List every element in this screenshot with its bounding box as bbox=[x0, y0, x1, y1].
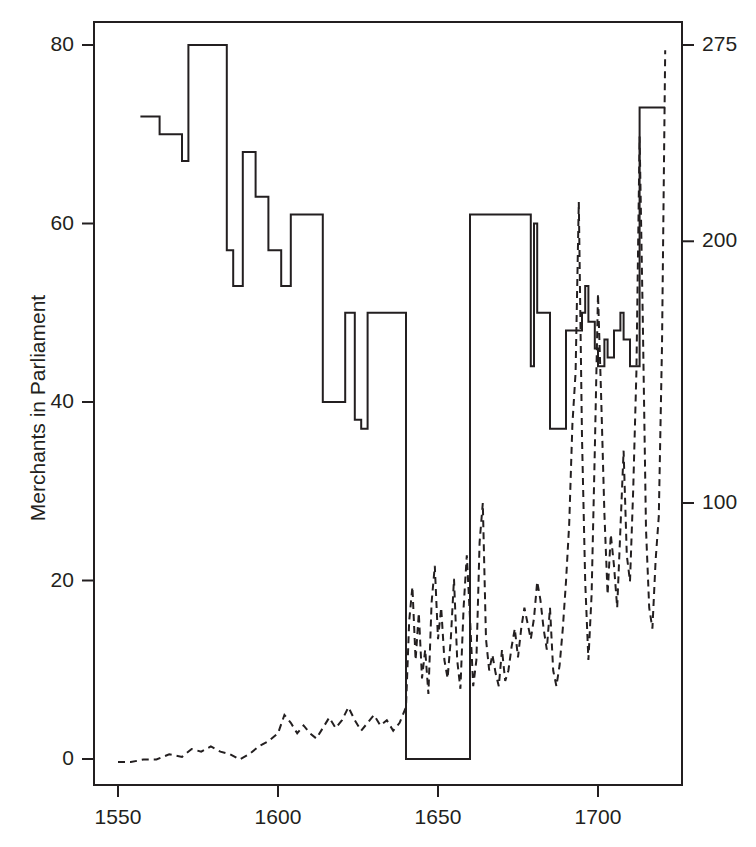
y-axis-left-ticks bbox=[82, 45, 94, 759]
x-tick-label-1650: 1650 bbox=[388, 805, 488, 829]
x-axis-ticks bbox=[118, 785, 598, 797]
chart-figure: 020406080 100200275 1550160016501700 Mer… bbox=[0, 0, 756, 847]
y-tick-label-left-0: 0 bbox=[0, 746, 74, 770]
y-tick-label-right-100: 100 bbox=[702, 490, 737, 514]
x-tick-label-1700: 1700 bbox=[548, 805, 648, 829]
y-axis-right-ticks bbox=[682, 45, 694, 503]
y-axis-left-title: Merchants in Parliament bbox=[26, 278, 50, 538]
y-tick-label-right-200: 200 bbox=[702, 228, 737, 252]
y-tick-label-left-80: 80 bbox=[0, 32, 74, 56]
y-tick-label-right-275: 275 bbox=[702, 32, 737, 56]
series-line-solid-merchants bbox=[140, 45, 665, 759]
x-tick-label-1550: 1550 bbox=[68, 805, 168, 829]
series-line-dashed-trade bbox=[118, 50, 665, 762]
y-tick-label-left-60: 60 bbox=[0, 211, 74, 235]
chart-canvas bbox=[0, 0, 756, 847]
x-tick-label-1600: 1600 bbox=[228, 805, 328, 829]
data-series-layer bbox=[118, 45, 665, 762]
y-tick-label-left-20: 20 bbox=[0, 568, 74, 592]
